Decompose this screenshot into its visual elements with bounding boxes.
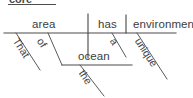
sentence-diagram-canvas: core area has environment ocean That of … — [0, 0, 193, 98]
subject-word: area — [32, 19, 55, 31]
verb-word: has — [98, 19, 117, 31]
preposition-line-of — [48, 33, 62, 65]
preposition-object-word: ocean — [78, 51, 110, 63]
direct-object-word: environment — [133, 19, 193, 31]
